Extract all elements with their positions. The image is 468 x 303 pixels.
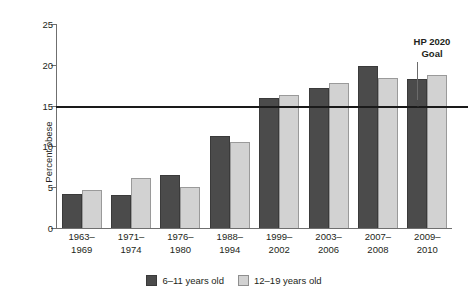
hp-2020-goal-line [56,106,468,108]
plot-area: 0510152025 [56,24,452,228]
x-axis-label-line-1: 2007– [365,231,391,242]
y-tick-label: 25 [42,19,53,30]
obesity-bar-chart-figure: Percent obese 0510152025 HP 2020 Goal 19… [0,0,468,303]
x-axis-label: 2007–2008 [353,231,402,257]
y-tick-label: 20 [42,59,53,70]
bar[interactable] [62,194,82,228]
bar[interactable] [358,66,378,228]
x-axis-line [56,228,452,229]
bar[interactable] [111,195,131,228]
x-axis-label-line-2: 2010 [403,244,452,257]
legend-item[interactable]: 6–11 years old [146,275,224,286]
bar[interactable] [230,142,250,228]
x-axis-label-line-2: 2006 [304,244,353,257]
x-axis-label-line-2: 2008 [353,244,402,257]
x-axis-label: 2003–2006 [304,231,353,257]
goal-arrow-head [414,100,422,107]
light-gray-swatch [238,275,249,286]
bar-groups [57,24,452,228]
bar[interactable] [427,75,447,228]
bar-group [353,24,402,228]
bar-group [255,24,304,228]
hp-2020-goal-annotation: HP 2020 Goal [398,36,466,59]
x-axis-label-line-2: 1980 [156,244,205,257]
x-axis-label: 2009–2010 [403,231,452,257]
goal-annotation-line-2: Goal [398,48,466,60]
legend-item-label: 12–19 years old [254,275,322,286]
x-axis-label-line-2: 1994 [205,244,254,257]
y-tick-label: 0 [48,223,53,234]
bar[interactable] [329,83,349,228]
legend-item-label: 6–11 years old [162,275,224,286]
chart-legend: 6–11 years old12–19 years old [0,275,468,286]
x-axis-label: 1971–1974 [106,231,155,257]
x-axis-label-line-1: 1999– [266,231,292,242]
bar-group [304,24,353,228]
bar-group [156,24,205,228]
x-axis-label-line-2: 1969 [57,244,106,257]
x-axis-label-line-1: 1976– [167,231,193,242]
bar[interactable] [279,95,299,228]
x-axis-label-line-1: 1988– [217,231,243,242]
bar-group [57,24,106,228]
bar[interactable] [82,190,102,228]
goal-annotation-line-1: HP 2020 [398,36,466,48]
bar[interactable] [378,78,398,228]
x-axis-label-line-1: 2009– [414,231,440,242]
goal-arrow-stem [417,62,418,102]
x-axis-label: 1988–1994 [205,231,254,257]
y-tick-label: 15 [42,100,53,111]
y-tick-label: 5 [48,182,53,193]
bar[interactable] [131,178,151,228]
bar-group [106,24,155,228]
bar-group [205,24,254,228]
bar[interactable] [160,175,180,228]
bar[interactable] [210,136,230,228]
bar[interactable] [259,98,279,228]
x-axis-category-labels: 1963–19691971–19741976–19801988–19941999… [57,231,452,257]
x-axis-label: 1999–2002 [255,231,304,257]
legend-item[interactable]: 12–19 years old [238,275,322,286]
bar[interactable] [309,88,329,228]
y-tick-label: 10 [42,141,53,152]
x-axis-label: 1976–1980 [156,231,205,257]
bar[interactable] [180,187,200,228]
x-axis-label-line-1: 1971– [118,231,144,242]
x-axis-label-line-1: 1963– [68,231,94,242]
x-axis-label: 1963–1969 [57,231,106,257]
dark-gray-swatch [146,275,157,286]
x-axis-label-line-2: 2002 [255,244,304,257]
x-axis-label-line-2: 1974 [106,244,155,257]
x-axis-label-line-1: 2003– [315,231,341,242]
